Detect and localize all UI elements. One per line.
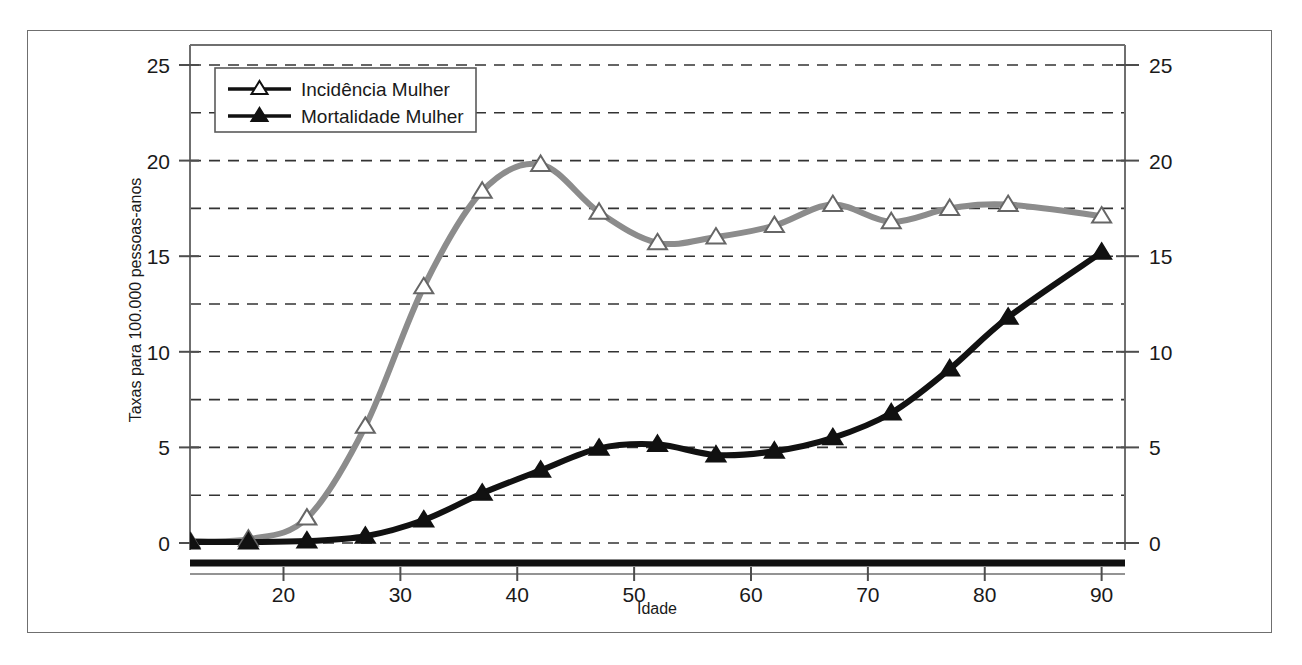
x-tick-label: 70 xyxy=(856,583,879,606)
y-tick-label-right: 25 xyxy=(1149,54,1172,77)
y-tick-label-right: 15 xyxy=(1149,245,1172,268)
figure-container: 0510152025 0510152025 2030405060708090 I… xyxy=(0,0,1302,665)
y-tick-label-left: 10 xyxy=(147,341,170,364)
x-tick-label: 40 xyxy=(506,583,529,606)
legend-label-incidence: Incidência Mulher xyxy=(301,79,451,100)
x-tick-label: 20 xyxy=(272,583,295,606)
x-axis-title: Idade xyxy=(637,600,677,617)
y-axis-left-tick-labels: 0510152025 xyxy=(147,54,170,555)
y-tick-label-left: 25 xyxy=(147,54,170,77)
y-tick-label-right: 0 xyxy=(1149,532,1161,555)
chart-legend: Incidência Mulher Mortalidade Mulher xyxy=(215,68,476,132)
y-tick-label-left: 5 xyxy=(158,436,170,459)
line-chart: 0510152025 0510152025 2030405060708090 I… xyxy=(0,0,1302,665)
x-axis-tick-labels: 2030405060708090 xyxy=(272,583,1113,606)
y-tick-label-right: 5 xyxy=(1149,436,1161,459)
x-tick-label: 90 xyxy=(1090,583,1113,606)
legend-label-mortality: Mortalidade Mulher xyxy=(301,106,464,127)
y-tick-label-right: 20 xyxy=(1149,150,1172,173)
y-tick-label-left: 0 xyxy=(158,532,170,555)
y-axis-right-tick-labels: 0510152025 xyxy=(1149,54,1172,555)
x-tick-label: 80 xyxy=(973,583,996,606)
x-tick-label: 60 xyxy=(739,583,762,606)
y-tick-label-left: 20 xyxy=(147,150,170,173)
x-tick-label: 30 xyxy=(389,583,412,606)
y-tick-label-right: 10 xyxy=(1149,341,1172,364)
y-tick-label-left: 15 xyxy=(147,245,170,268)
y-axis-title: Taxas para 100.000 pessoas-anos xyxy=(127,178,144,423)
